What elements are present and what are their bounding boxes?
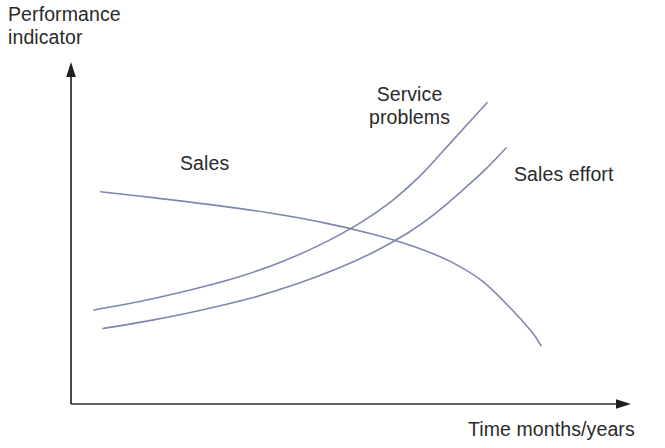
y-axis-arrowhead-icon	[66, 62, 76, 77]
chart-figure: Performanceindicator Time months/years S…	[0, 0, 665, 448]
curve-label-sales-effort: Sales effort	[514, 163, 613, 186]
curve-label-sales: Sales	[180, 152, 229, 175]
curve-sales	[101, 192, 541, 346]
curve-sales-effort	[103, 148, 506, 329]
y-axis-label: Performanceindicator	[8, 3, 121, 49]
curve-label-sales-text: Sales	[180, 152, 229, 174]
curve-label-sales-effort-text: Sales effort	[514, 163, 613, 185]
x-axis-arrowhead-icon	[616, 399, 631, 409]
curve-service-problems	[94, 103, 487, 310]
curve-label-service-problems-line1: Service	[377, 83, 443, 105]
y-axis-label-line2: indicator	[8, 26, 83, 48]
curve-label-service-problems: Serviceproblems	[369, 83, 450, 129]
x-axis-label: Time months/years	[468, 418, 635, 441]
y-axis-label-line1: Performance	[8, 3, 121, 25]
chart-plot-area	[0, 0, 665, 448]
x-axis-label-text: Time months/years	[468, 418, 635, 440]
curve-label-service-problems-line2: problems	[369, 106, 450, 128]
